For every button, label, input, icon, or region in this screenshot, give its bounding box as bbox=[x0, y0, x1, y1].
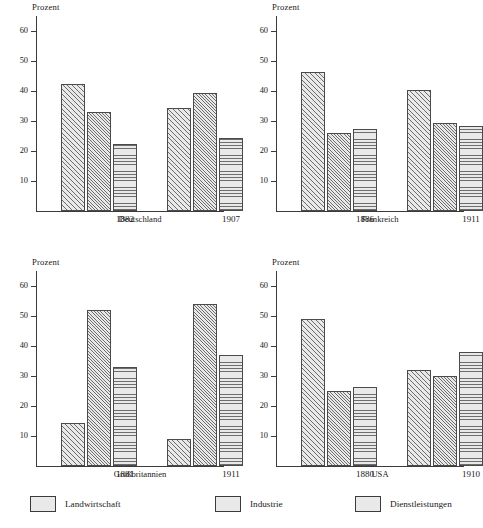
bar bbox=[87, 112, 111, 211]
y-axis-label: Prozent bbox=[32, 257, 60, 267]
x-axis-labels: 1886Frankreich1911 bbox=[268, 214, 468, 230]
bar bbox=[459, 352, 483, 466]
bar bbox=[61, 84, 85, 212]
x-axis-year-label: 1911 bbox=[222, 469, 240, 479]
bars-area bbox=[277, 16, 464, 211]
legend-item-industrie: Industrie bbox=[215, 496, 283, 512]
y-axis-tick-label: 60 bbox=[12, 26, 28, 35]
bar bbox=[327, 391, 351, 466]
y-axis-tick-label: 20 bbox=[12, 146, 28, 155]
y-axis-tick-label: 30 bbox=[252, 116, 268, 125]
y-axis-label: Prozent bbox=[32, 2, 60, 12]
bar bbox=[433, 123, 457, 212]
y-axis-label: Prozent bbox=[272, 257, 300, 267]
y-axis-tick-label: 10 bbox=[252, 431, 268, 440]
x-axis-year-label: 1911 bbox=[462, 214, 480, 224]
bar bbox=[353, 387, 377, 467]
bars-area bbox=[37, 16, 224, 211]
bar bbox=[87, 310, 111, 466]
x-axis-region-label: Großbritannien bbox=[114, 469, 167, 479]
y-axis-tick-label: 40 bbox=[12, 86, 28, 95]
x-axis-labels: 1881Großbritannien1911 bbox=[28, 469, 228, 485]
y-axis-tick-label: 30 bbox=[12, 371, 28, 380]
bar bbox=[327, 133, 351, 211]
y-axis-tick-label: 60 bbox=[252, 281, 268, 290]
x-axis-line bbox=[276, 466, 464, 467]
x-axis-line bbox=[36, 211, 224, 212]
y-axis-tick-label: 40 bbox=[252, 341, 268, 350]
legend-swatch-dienstleistungen bbox=[355, 496, 381, 512]
x-axis-region-label: Deutschland bbox=[119, 214, 162, 224]
y-axis-tick-label: 60 bbox=[252, 26, 268, 35]
legend-swatch-industrie bbox=[215, 496, 241, 512]
bar bbox=[407, 370, 431, 466]
y-axis-tick-label: 10 bbox=[12, 431, 28, 440]
bar bbox=[61, 423, 85, 467]
bars-area bbox=[37, 271, 224, 466]
y-axis-tick-label: 20 bbox=[12, 401, 28, 410]
y-axis-tick-label: 50 bbox=[252, 311, 268, 320]
y-axis-tick-label: 50 bbox=[252, 56, 268, 65]
bar bbox=[219, 355, 243, 466]
x-axis-region-label: USA bbox=[371, 469, 388, 479]
bars-area bbox=[277, 271, 464, 466]
y-axis-tick-label: 20 bbox=[252, 401, 268, 410]
legend-item-dienstleistungen: Dienstleistungen bbox=[355, 496, 452, 512]
bar bbox=[167, 108, 191, 212]
y-axis-tick-label: 30 bbox=[252, 371, 268, 380]
x-axis-line bbox=[36, 466, 224, 467]
bar bbox=[353, 129, 377, 212]
y-axis-tick-label: 40 bbox=[252, 86, 268, 95]
y-axis-tick-label: 50 bbox=[12, 56, 28, 65]
y-axis-tick-label: 10 bbox=[252, 176, 268, 185]
y-axis-tick-label: 50 bbox=[12, 311, 28, 320]
y-axis-tick-label: 10 bbox=[12, 176, 28, 185]
bar bbox=[113, 367, 137, 466]
chart-grid: Prozent 102030405060 1882Deutschland1907… bbox=[0, 0, 479, 490]
bar bbox=[193, 304, 217, 466]
legend-label: Dienstleistungen bbox=[390, 499, 452, 509]
x-axis-labels: 1880USA1910 bbox=[268, 469, 468, 485]
bar bbox=[219, 138, 243, 212]
legend-label: Industrie bbox=[250, 499, 283, 509]
y-axis-tick-label: 60 bbox=[12, 281, 28, 290]
bar bbox=[167, 439, 191, 466]
x-axis-year-label: 1907 bbox=[222, 214, 240, 224]
bar bbox=[433, 376, 457, 466]
chart-legend: Landwirtschaft Industrie Dienstleistunge… bbox=[0, 492, 479, 528]
bar bbox=[301, 72, 325, 212]
y-axis-tick-label: 30 bbox=[12, 116, 28, 125]
bar bbox=[407, 90, 431, 212]
x-axis-line bbox=[276, 211, 464, 212]
x-axis-region-label: Frankreich bbox=[361, 214, 398, 224]
legend-label: Landwirtschaft bbox=[65, 499, 121, 509]
legend-item-landwirtschaft: Landwirtschaft bbox=[30, 496, 121, 512]
bar bbox=[301, 319, 325, 466]
x-axis-labels: 1882Deutschland1907 bbox=[28, 214, 228, 230]
legend-swatch-landwirtschaft bbox=[30, 496, 56, 512]
y-axis-label: Prozent bbox=[272, 2, 300, 12]
bar bbox=[193, 93, 217, 212]
y-axis-tick-label: 40 bbox=[12, 341, 28, 350]
x-axis-year-label: 1910 bbox=[462, 469, 480, 479]
bar bbox=[459, 126, 483, 212]
y-axis-tick-label: 20 bbox=[252, 146, 268, 155]
bar bbox=[113, 144, 137, 212]
